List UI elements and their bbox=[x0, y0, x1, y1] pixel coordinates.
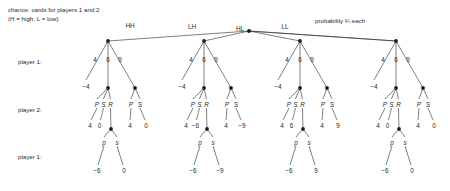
bid-edge-9-LL bbox=[396, 41, 423, 88]
terminal-edge-P-mid-LH bbox=[187, 108, 193, 120]
final-payoff-p-LL: −6 bbox=[381, 167, 388, 174]
action-edge-R-mid-HH bbox=[108, 88, 111, 99]
action-label-P-right-HH: P bbox=[129, 101, 133, 108]
tree-edges bbox=[0, 0, 450, 191]
action-edge-P-right-LL bbox=[419, 88, 423, 99]
final-action-label-s-HL: s bbox=[307, 139, 310, 146]
final-payoff-s-HL: 9 bbox=[314, 167, 318, 174]
final-terminal-edge-s-LL bbox=[405, 146, 411, 165]
bid-edge-9-LH bbox=[204, 41, 231, 88]
final-terminal-edge-p-LH bbox=[194, 146, 200, 165]
action-label-S-right-HL: S bbox=[330, 101, 334, 108]
final-payoff-s-LH: −9 bbox=[216, 167, 223, 174]
payoff-bid4-HH: −4 bbox=[82, 83, 89, 90]
final-action-label-p-LH: p bbox=[198, 139, 202, 146]
action-edge-S-mid-HL bbox=[296, 88, 301, 99]
payoff-P-mid-HH: 4 bbox=[88, 122, 92, 129]
payoff-P-right-HH: 4 bbox=[128, 122, 132, 129]
bid-label-9-HH: 9 bbox=[118, 56, 122, 63]
action-edge-P-mid-LH bbox=[193, 88, 204, 99]
final-action-label-p-HH: p bbox=[102, 139, 106, 146]
figure-caption-line-1: chance: cards for players 1 and 2 bbox=[8, 6, 100, 15]
action-edge-P-right-HH bbox=[131, 88, 135, 99]
action-label-P-right-HL: P bbox=[321, 101, 325, 108]
final-edge-p-LH bbox=[200, 129, 207, 137]
action-edge-R-mid-LL bbox=[396, 88, 399, 99]
payoff-S-mid-HH: 0 bbox=[98, 122, 102, 129]
bid-label-4-LL: 4 bbox=[381, 56, 385, 63]
final-edge-s-HH bbox=[111, 129, 117, 137]
action-label-R-mid-LL: R bbox=[396, 101, 401, 108]
action-edge-S-right-HL bbox=[327, 88, 332, 99]
game-tree-figure: chance: cards for players 1 and 2 (H = h… bbox=[0, 0, 450, 191]
bid-label-6-HH: 6 bbox=[106, 56, 110, 63]
payoff-P-right-LL: 4 bbox=[416, 122, 420, 129]
probability-note: probability ¼ each bbox=[315, 17, 365, 26]
action-edge-P-right-LH bbox=[227, 88, 231, 99]
row-label-player1-bottom: player 1: bbox=[18, 153, 42, 160]
payoff-P-right-HL: 4 bbox=[320, 122, 324, 129]
payoff-bid4-HL: −4 bbox=[274, 83, 281, 90]
bid-label-9-LH: 9 bbox=[214, 56, 218, 63]
bid-label-4-HH: 4 bbox=[93, 56, 97, 63]
bid-label-6-HL: 6 bbox=[298, 56, 302, 63]
final-payoff-p-HH: −6 bbox=[93, 167, 100, 174]
action-edge-S-right-LL bbox=[423, 88, 428, 99]
action-label-P-mid-HL: P bbox=[287, 101, 291, 108]
final-terminal-edge-p-LL bbox=[386, 146, 392, 165]
final-edge-s-LL bbox=[399, 129, 405, 137]
payoff-S-mid-LL: 0 bbox=[386, 122, 390, 129]
action-label-R-mid-HL: R bbox=[300, 101, 305, 108]
payoff-P-mid-LH: 4 bbox=[184, 122, 188, 129]
action-label-S-right-LH: S bbox=[234, 101, 238, 108]
chance-branch-label-LH: LH bbox=[188, 23, 196, 30]
payoff-S-right-HL: 9 bbox=[336, 122, 340, 129]
final-payoff-s-HH: 0 bbox=[122, 167, 126, 174]
bid-label-4-HL: 4 bbox=[285, 56, 289, 63]
action-edge-S-right-HH bbox=[135, 88, 140, 99]
payoff-S-mid-HL: 6 bbox=[290, 122, 294, 129]
action-label-S-mid-HH: S bbox=[101, 101, 105, 108]
action-edge-R-mid-HL bbox=[300, 88, 303, 99]
edge-R-to-player1-HH bbox=[111, 108, 112, 129]
final-terminal-edge-s-HH bbox=[117, 146, 123, 165]
action-label-P-mid-LH: P bbox=[191, 101, 195, 108]
row-label-player1-top: player 1: bbox=[18, 58, 42, 65]
chance-node bbox=[247, 29, 251, 33]
action-label-R-mid-HH: R bbox=[108, 101, 113, 108]
action-label-P-mid-LL: P bbox=[383, 101, 387, 108]
bid-label-9-HL: 9 bbox=[310, 56, 314, 63]
action-edge-R-mid-LH bbox=[204, 88, 207, 99]
action-label-P-right-LL: P bbox=[417, 101, 421, 108]
bid-label-6-LH: 6 bbox=[202, 56, 206, 63]
action-edge-P-mid-HL bbox=[289, 88, 300, 99]
payoff-bid4-LL: −4 bbox=[370, 83, 377, 90]
final-terminal-edge-s-LH bbox=[213, 146, 219, 165]
terminal-edge-S-right-LH bbox=[236, 108, 241, 120]
action-label-R-mid-LH: R bbox=[204, 101, 209, 108]
payoff-bid4-LH: −4 bbox=[178, 83, 185, 90]
action-edge-S-right-LH bbox=[231, 88, 236, 99]
payoff-S-right-HH: 0 bbox=[144, 122, 148, 129]
action-edge-S-mid-LL bbox=[392, 88, 397, 99]
terminal-edge-P-mid-HH bbox=[91, 108, 97, 120]
terminal-edge-S-mid-HH bbox=[101, 108, 104, 120]
final-terminal-edge-p-HL bbox=[290, 146, 296, 165]
terminal-edge-P-mid-LL bbox=[379, 108, 385, 120]
final-payoff-p-LH: −6 bbox=[189, 167, 196, 174]
terminal-edge-P-right-LL bbox=[418, 108, 419, 120]
chance-branch-label-LL: LL bbox=[281, 23, 288, 30]
bid-label-4-LH: 4 bbox=[189, 56, 193, 63]
terminal-edge-P-mid-HL bbox=[283, 108, 289, 120]
action-label-S-right-HH: S bbox=[138, 101, 142, 108]
final-action-label-s-LH: s bbox=[211, 139, 214, 146]
final-action-label-p-HL: p bbox=[294, 139, 298, 146]
terminal-edge-P-right-LH bbox=[226, 108, 227, 120]
payoff-P-mid-LL: 4 bbox=[376, 122, 380, 129]
terminal-edge-S-right-HH bbox=[140, 108, 145, 120]
action-edge-S-mid-LH bbox=[200, 88, 205, 99]
terminal-edge-S-mid-LH bbox=[197, 108, 200, 120]
figure-caption-line-2: (H = high, L = low): bbox=[8, 15, 60, 24]
bid-edge-9-HL bbox=[300, 41, 327, 88]
final-payoff-s-LL: 0 bbox=[410, 167, 414, 174]
